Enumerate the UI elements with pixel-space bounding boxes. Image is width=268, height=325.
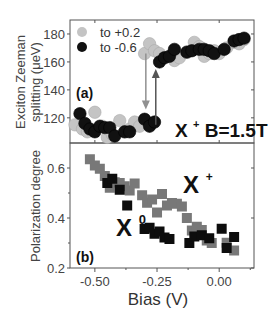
data-point <box>204 233 214 243</box>
panel-b-y-tick-label: 0.6 <box>47 161 65 176</box>
panel-b-data-points <box>85 154 239 255</box>
data-point <box>157 189 167 199</box>
label-x-zero: X 0 <box>116 212 146 241</box>
panel-a-y-axis-title-line2: splitting (μeV) <box>28 42 43 122</box>
data-point <box>123 126 135 138</box>
figure: 120140160180 0.20.40.6-0.50-0.250.00 to … <box>0 0 268 325</box>
data-point <box>222 243 232 253</box>
chart-svg: 120140160180 0.20.40.6-0.50-0.250.00 to … <box>0 0 268 325</box>
data-point <box>130 179 140 189</box>
data-point <box>148 116 160 128</box>
x-axis-title: Bias (V) <box>128 290 188 309</box>
svg-text:X 0: X 0 <box>116 212 146 241</box>
label-x-plus: X + <box>183 170 213 198</box>
legend-marker-to-minus-0-6 <box>77 42 87 52</box>
legend-label-to-plus-0-2: to +0.2 <box>100 25 140 40</box>
legend-marker-to-plus-0-2 <box>77 27 87 37</box>
data-point <box>218 43 230 55</box>
panel-a-label: (a) <box>76 85 93 101</box>
data-point <box>89 106 101 118</box>
panel-b-y-axis-title: Polarization degree <box>28 150 43 262</box>
annotation-x: X <box>175 120 188 141</box>
data-point <box>122 201 132 211</box>
arrow-head-icon <box>152 69 160 78</box>
x-tick-label: -0.50 <box>80 274 110 289</box>
data-point <box>107 174 117 184</box>
panel-b-y-tick-label: 0.2 <box>47 261 65 276</box>
annotation-field: B=1.5T <box>205 120 268 141</box>
panel-a-y-tick-label: 160 <box>43 55 65 70</box>
annotation-sup: + <box>193 118 199 130</box>
data-point <box>217 224 227 234</box>
data-point <box>182 213 192 223</box>
data-point <box>229 232 239 242</box>
x-tick-label: -0.25 <box>142 274 172 289</box>
x-tick-label: 0.00 <box>207 274 232 289</box>
panel-b-label: (b) <box>76 249 94 265</box>
arrow-head-icon <box>142 100 150 109</box>
legend: to +0.2 to -0.6 <box>77 25 140 55</box>
panel-a-y-axis-title-line1: Exciton Zeeman <box>13 35 28 129</box>
legend-label-to-minus-0-6: to -0.6 <box>100 40 137 55</box>
panel-a-y-tick-label: 180 <box>43 27 65 42</box>
panel-b-y-tick-label: 0.4 <box>47 211 65 226</box>
panel-a-y-tick-label: 140 <box>43 83 65 98</box>
data-point <box>177 202 187 212</box>
panel-a-y-tick-label: 120 <box>43 111 65 126</box>
data-point <box>238 32 250 44</box>
data-point <box>152 208 162 218</box>
data-point <box>147 195 157 205</box>
data-point <box>168 43 180 55</box>
data-point <box>164 234 174 244</box>
data-point <box>115 185 125 195</box>
svg-text:X +: X + <box>183 170 213 198</box>
